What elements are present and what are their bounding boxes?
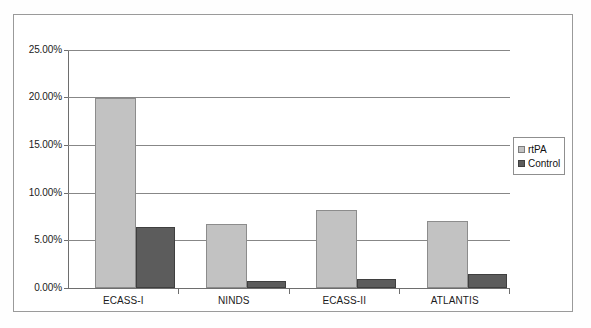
bar-ninds-rtpa[interactable] [206,224,247,288]
bar-ecass-ii-control[interactable] [357,279,396,288]
chart-legend: rtPA Control [513,137,565,175]
legend-label-rtpa: rtPA [528,144,547,155]
y-axis-tick-label-25: 25.00% [6,45,62,55]
x-axis-label-ninds: NINDS [179,295,290,307]
legend-label-control: Control [528,158,560,169]
bar-group-ninds [179,50,290,288]
y-axis-tick-label-5: 5.00% [6,235,62,245]
y-axis-tick-label-15: 15.00% [6,140,62,150]
bar-group-atlantis [400,50,511,288]
bar-chart: 25.00% 20.00% 15.00% 10.00% 5.00% 0.00% [0,0,591,328]
x-axis-tick-1 [178,289,179,294]
bar-group-ecass-ii [289,50,400,288]
bar-ecass-i-control[interactable] [136,227,175,288]
legend-swatch-control-icon [518,160,525,167]
x-axis-label-ecass-ii: ECASS-II [289,295,400,307]
y-axis-tick-label-10: 10.00% [6,188,62,198]
bar-ecass-ii-rtpa[interactable] [316,210,357,288]
x-axis-tick-2 [289,289,290,294]
y-axis-tick-label-0: 0.00% [6,283,62,293]
legend-item-rtpa[interactable]: rtPA [518,142,561,156]
legend-swatch-rtpa-icon [518,146,525,153]
y-axis-tick-label-20: 20.00% [6,92,62,102]
x-axis-tick-4 [509,289,510,294]
legend-item-control[interactable]: Control [518,156,561,170]
bar-atlantis-control[interactable] [468,274,507,288]
plot-area [68,50,510,288]
bar-ninds-control[interactable] [247,281,286,288]
x-axis-label-ecass-i: ECASS-I [68,295,179,307]
x-axis-label-atlantis: ATLANTIS [400,295,511,307]
x-axis-tick-3 [399,289,400,294]
scanned-page: 25.00% 20.00% 15.00% 10.00% 5.00% 0.00% [0,0,591,328]
bar-group-ecass-i [68,50,179,288]
bar-atlantis-rtpa[interactable] [427,221,468,288]
bar-ecass-i-rtpa[interactable] [95,98,136,288]
